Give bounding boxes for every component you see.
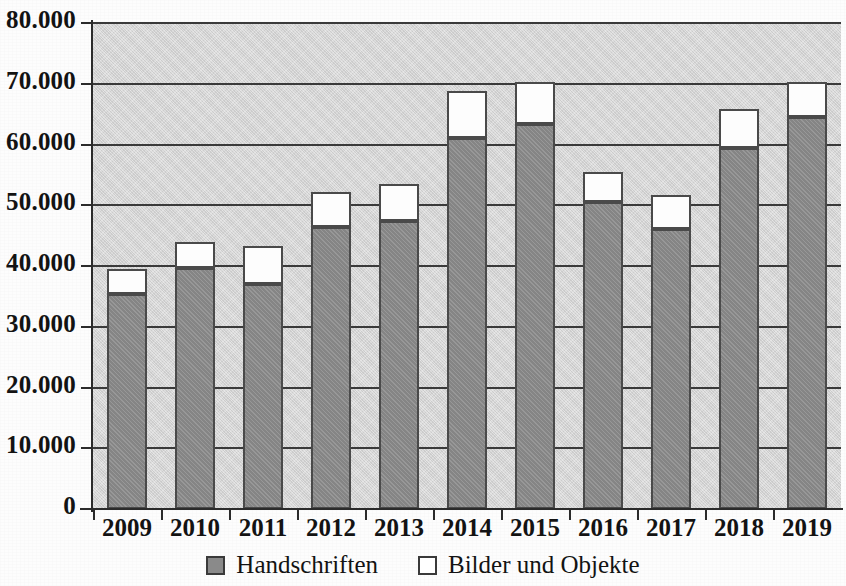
bar-group xyxy=(787,84,827,509)
gridline xyxy=(93,22,841,24)
bar-group xyxy=(175,244,215,509)
x-axis-tick-label: 2018 xyxy=(705,514,773,542)
y-axis-tick-label: 10.000 xyxy=(6,431,76,459)
y-axis-tick xyxy=(81,447,92,449)
legend-item-bilder-und-objekte: Bilder und Objekte xyxy=(418,551,640,579)
legend-label: Bilder und Objekte xyxy=(448,551,640,579)
bar-segment-handschriften xyxy=(243,284,283,509)
filled-square-icon xyxy=(206,556,225,575)
bar-segment-bilder-und-objekte xyxy=(651,195,691,229)
chart-figure: 010.00020.00030.00040.00050.00060.00070.… xyxy=(0,0,846,586)
bar-segment-bilder-und-objekte xyxy=(583,172,623,202)
x-axis-tick-label: 2016 xyxy=(569,514,637,542)
bar-segment-bilder-und-objekte xyxy=(787,82,827,117)
bar-segment-bilder-und-objekte xyxy=(175,242,215,268)
bar-segment-handschriften xyxy=(379,221,419,509)
bar-group xyxy=(379,186,419,509)
x-axis-tick-label: 2009 xyxy=(93,514,161,542)
y-axis-tick-label: 20.000 xyxy=(6,371,76,399)
chart-legend: Handschriften Bilder und Objekte xyxy=(0,551,846,579)
empty-square-icon xyxy=(418,556,437,575)
bar-segment-bilder-und-objekte xyxy=(243,246,283,284)
bar-segment-bilder-und-objekte xyxy=(515,82,555,124)
bar-segment-bilder-und-objekte xyxy=(311,192,351,227)
bar-group xyxy=(651,197,691,509)
y-axis-tick-label: 30.000 xyxy=(6,310,76,338)
bar-segment-handschriften xyxy=(651,229,691,509)
bar-segment-handschriften xyxy=(583,202,623,509)
y-axis-tick xyxy=(81,83,92,85)
bar-group xyxy=(515,84,555,509)
bar-group xyxy=(243,248,283,509)
x-axis-tick-label: 2012 xyxy=(297,514,365,542)
y-axis-tick-label: 80.000 xyxy=(6,6,76,34)
y-axis-tick xyxy=(81,326,92,328)
y-axis-tick xyxy=(81,508,92,510)
y-axis-tick-label: 60.000 xyxy=(6,128,76,156)
x-axis-tick-label: 2019 xyxy=(773,514,841,542)
y-axis-tick xyxy=(81,387,92,389)
bar-group xyxy=(719,111,759,509)
bar-segment-handschriften xyxy=(311,227,351,509)
y-axis-tick-label: 50.000 xyxy=(6,188,76,216)
x-axis-tick-label: 2014 xyxy=(433,514,501,542)
bar-segment-bilder-und-objekte xyxy=(447,91,487,139)
bar-segment-bilder-und-objekte xyxy=(719,109,759,147)
bar-segment-handschriften xyxy=(447,138,487,509)
y-axis-tick-label: 40.000 xyxy=(6,249,76,277)
x-axis-tick-label: 2011 xyxy=(229,514,297,542)
bar-group xyxy=(583,174,623,509)
x-axis-tick-label: 2015 xyxy=(501,514,569,542)
gridline xyxy=(93,83,841,85)
bar-segment-handschriften xyxy=(787,117,827,509)
y-axis-tick xyxy=(81,265,92,267)
x-axis-tick-label: 2017 xyxy=(637,514,705,542)
bar-segment-handschriften xyxy=(107,294,147,509)
y-axis-tick xyxy=(81,204,92,206)
bar-segment-handschriften xyxy=(515,124,555,509)
x-axis-tick-label: 2010 xyxy=(161,514,229,542)
y-axis-tick-label: 70.000 xyxy=(6,67,76,95)
x-axis-line xyxy=(80,508,843,510)
bar-group xyxy=(311,194,351,509)
legend-label: Handschriften xyxy=(236,551,378,579)
bar-segment-handschriften xyxy=(719,148,759,509)
bar-segment-handschriften xyxy=(175,268,215,509)
bar-group xyxy=(107,271,147,509)
bar-segment-bilder-und-objekte xyxy=(379,184,419,221)
bar-segment-bilder-und-objekte xyxy=(107,269,147,294)
x-axis-tick-label: 2013 xyxy=(365,514,433,542)
y-axis-tick xyxy=(81,144,92,146)
legend-item-handschriften: Handschriften xyxy=(206,551,378,579)
y-axis-tick xyxy=(81,22,92,24)
y-axis-tick-label: 0 xyxy=(63,492,76,520)
bar-group xyxy=(447,93,487,509)
plot-area xyxy=(93,23,841,509)
